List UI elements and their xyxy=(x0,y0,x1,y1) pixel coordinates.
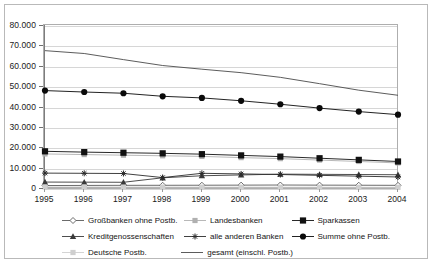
chart-outer-frame: 010.00020.00030.00040.00050.00060.00070.… xyxy=(4,4,428,259)
legend-key-square-light xyxy=(183,215,207,226)
y-tick-mark xyxy=(39,127,43,128)
y-tick-label: 10.000 xyxy=(2,163,36,173)
y-tick-label: 70.000 xyxy=(2,40,36,50)
x-tick-mark xyxy=(83,189,84,192)
series-summe-ohne-postb- xyxy=(42,87,401,117)
data-point-asterisk xyxy=(277,172,283,178)
data-point-circle-filled xyxy=(81,89,87,95)
y-tick-mark xyxy=(39,147,43,148)
legend-item-label: Großbanken ohne Postb. xyxy=(88,215,177,226)
y-tick-label: 80.000 xyxy=(2,20,36,30)
x-tick-label: 2002 xyxy=(309,194,328,204)
x-tick-mark xyxy=(240,189,241,192)
legend-item[interactable]: Summe ohne Postb. xyxy=(291,231,398,242)
legend-item-label: Landesbanken xyxy=(210,215,263,226)
legend-item[interactable]: Kreditgenossenschaften xyxy=(43,231,183,242)
legend-item-label: Kreditgenossenschaften xyxy=(88,231,174,242)
y-tick-label: 30.000 xyxy=(2,122,36,132)
data-point-square-filled xyxy=(199,151,205,157)
data-point-square-filled xyxy=(316,155,322,161)
legend-key-square-pale xyxy=(61,247,85,258)
y-tick-mark xyxy=(39,45,43,46)
x-tick-mark xyxy=(358,189,359,192)
legend-item-label: Summe ohne Postb. xyxy=(318,231,390,242)
y-tick-mark xyxy=(39,66,43,67)
plot-area xyxy=(43,24,398,189)
data-point-asterisk xyxy=(81,170,87,176)
data-point-asterisk xyxy=(120,171,126,177)
data-point-square-filled xyxy=(238,152,244,158)
legend-key-triangle-filled xyxy=(61,231,85,242)
y-tick-label: 60.000 xyxy=(2,61,36,71)
data-point-circle-filled xyxy=(316,105,322,111)
legend-item[interactable]: Großbanken ohne Postb. xyxy=(43,215,183,226)
x-tick-label: 1998 xyxy=(152,194,171,204)
x-tick-label: 1996 xyxy=(74,194,93,204)
x-tick-label: 2004 xyxy=(388,194,407,204)
y-tick-label: 50.000 xyxy=(2,81,36,91)
data-point-circle-filled xyxy=(277,101,283,107)
series-sparkassen xyxy=(42,148,401,164)
y-tick-mark xyxy=(39,86,43,87)
data-point-asterisk xyxy=(199,170,205,176)
data-point-square-filled xyxy=(299,217,305,223)
legend-item[interactable]: alle anderen Banken xyxy=(183,231,290,242)
legend-item-label: gesamt (einschl. Postb.) xyxy=(207,247,293,258)
x-tick-mark xyxy=(397,189,398,192)
data-point-circle-filled xyxy=(238,98,244,104)
data-point-square-filled xyxy=(160,150,166,156)
x-tick-mark xyxy=(122,189,123,192)
y-tick-label: 0 xyxy=(2,183,36,193)
x-tick-label: 1999 xyxy=(191,194,210,204)
x-tick-mark xyxy=(201,189,202,192)
legend-row: Großbanken ohne Postb.LandesbankenSparka… xyxy=(43,212,398,228)
x-tick-label: 2001 xyxy=(270,194,289,204)
legend-item[interactable]: gesamt (einschl. Postb.) xyxy=(180,247,293,258)
data-point-circle-filled xyxy=(160,93,166,99)
legend-key-square-filled xyxy=(291,215,315,226)
data-point-asterisk xyxy=(356,173,362,179)
y-tick-mark xyxy=(39,25,43,26)
y-tick-mark xyxy=(39,168,43,169)
data-point-circle-filled xyxy=(42,87,48,93)
series-gesamt-einschl-postb- xyxy=(45,51,398,96)
chart-legend: Großbanken ohne Postb.LandesbankenSparka… xyxy=(43,212,398,260)
data-point-circle-filled xyxy=(395,112,401,118)
legend-key-line-only xyxy=(180,247,204,258)
legend-item-label: Sparkassen xyxy=(318,215,360,226)
data-point-square-filled xyxy=(356,157,362,163)
legend-row: Kreditgenossenschaftenalle anderen Banke… xyxy=(43,228,398,244)
y-tick-mark xyxy=(39,188,43,189)
data-point-asterisk xyxy=(238,171,244,177)
legend-item[interactable]: Deutsche Postb. xyxy=(43,247,180,258)
legend-key-asterisk xyxy=(183,231,207,242)
data-point-circle-filled xyxy=(356,108,362,114)
x-tick-mark xyxy=(279,189,280,192)
data-point-circle-filled xyxy=(199,95,205,101)
x-tick-label: 1997 xyxy=(113,194,132,204)
data-point-square-light xyxy=(192,217,197,222)
data-point-circle-filled xyxy=(120,90,126,96)
data-point-square-filled xyxy=(42,148,48,154)
x-tick-mark xyxy=(319,189,320,192)
data-point-asterisk xyxy=(42,170,48,176)
data-point-circle-filled xyxy=(299,233,305,239)
legend-key-circle-filled xyxy=(291,231,315,242)
series-layer xyxy=(44,25,399,190)
data-point-asterisk xyxy=(160,175,166,181)
data-point-square-filled xyxy=(277,154,283,160)
legend-key-diamond-open xyxy=(61,215,85,226)
data-point-asterisk xyxy=(192,233,198,239)
data-point-asterisk xyxy=(395,174,401,180)
y-tick-label: 40.000 xyxy=(2,102,36,112)
chart-screenshot: 010.00020.00030.00040.00050.00060.00070.… xyxy=(0,0,436,272)
x-tick-mark xyxy=(44,189,45,192)
x-tick-mark xyxy=(162,189,163,192)
legend-item-label: Deutsche Postb. xyxy=(88,247,147,258)
data-point-diamond-open xyxy=(70,217,76,223)
legend-row: Deutsche Postb.gesamt (einschl. Postb.) xyxy=(43,244,398,260)
data-point-square-filled xyxy=(395,158,401,164)
legend-item[interactable]: Landesbanken xyxy=(183,215,290,226)
data-point-square-filled xyxy=(81,149,87,155)
legend-item[interactable]: Sparkassen xyxy=(291,215,398,226)
